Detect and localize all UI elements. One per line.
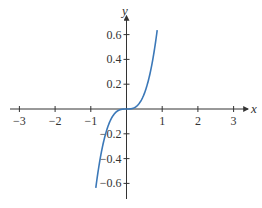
x-tick-label: 1 bbox=[159, 114, 165, 128]
x-axis-label: x bbox=[250, 101, 257, 116]
x-tick-label: 3 bbox=[231, 114, 237, 128]
y-tick-label: −0.2 bbox=[100, 127, 122, 141]
y-axis-label: y bbox=[120, 3, 128, 18]
x-tick-label: 2 bbox=[195, 114, 201, 128]
y-tick-label: 0.4 bbox=[107, 52, 122, 66]
y-tick-label: 0.6 bbox=[107, 28, 122, 42]
function-plot: −3−2−1123 0.60.40.2−0.2−0.4−0.6 x y bbox=[0, 0, 262, 208]
axes bbox=[10, 16, 248, 199]
x-tick-label: −1 bbox=[84, 114, 97, 128]
y-tick-label: −0.6 bbox=[100, 176, 122, 190]
y-tick-label: −0.4 bbox=[100, 152, 122, 166]
x-tick-label: −3 bbox=[13, 114, 26, 128]
x-tick-label: −2 bbox=[49, 114, 62, 128]
y-tick-label: 0.2 bbox=[107, 77, 122, 91]
